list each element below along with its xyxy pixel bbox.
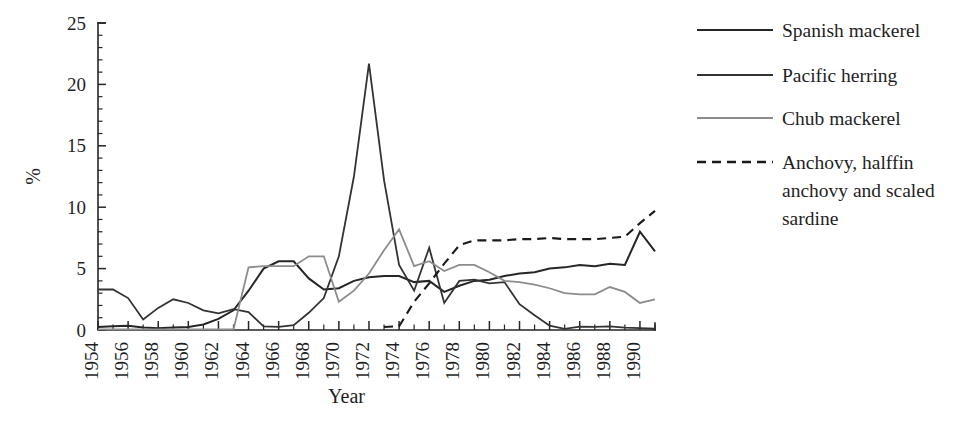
x-tick-label: 1980	[472, 342, 493, 380]
y-tick-label: 5	[77, 258, 87, 279]
legend-label-3: Chub mackerel	[782, 108, 901, 129]
x-tick-label: 1982	[503, 342, 524, 380]
legend-label-6: sardine	[782, 208, 838, 229]
x-tick-label: 1986	[563, 342, 584, 380]
line-chart-svg: 0510152025195419561958196019621964196619…	[0, 0, 961, 426]
x-tick-label: 1988	[593, 342, 614, 380]
x-tick-label: 1990	[623, 342, 644, 380]
chart-legend: Spanish mackerelPacific herringChub mack…	[697, 20, 935, 229]
y-tick-label: 0	[77, 320, 87, 341]
x-tick-label: 1984	[533, 342, 554, 381]
x-tick-label: 1956	[111, 342, 132, 380]
x-tick-label: 1960	[171, 342, 192, 380]
y-tick-label: 15	[67, 135, 86, 156]
legend-label-4: Anchovy, halffin	[782, 152, 914, 173]
x-tick-label: 1954	[81, 342, 102, 381]
x-tick-label: 1976	[412, 342, 433, 380]
y-tick-label: 20	[67, 74, 86, 95]
axes-group	[98, 23, 655, 330]
x-axis-title: Year	[328, 385, 365, 407]
legend-label-1: Spanish mackerel	[782, 20, 921, 41]
y-tick-label: 10	[67, 197, 86, 218]
series-line-1	[98, 232, 655, 328]
x-tick-label: 1974	[382, 342, 403, 381]
axis-spines	[98, 23, 655, 330]
series-line-2	[98, 64, 655, 329]
x-tick-label: 1966	[262, 342, 283, 380]
x-tick-label: 1972	[352, 342, 373, 380]
x-tick-label: 1970	[322, 342, 343, 380]
x-tick-label: 1964	[232, 342, 253, 381]
x-tick-label: 1958	[141, 342, 162, 380]
series-line-4	[384, 211, 655, 327]
series-group	[98, 64, 655, 330]
y-tick-label: 25	[67, 13, 86, 34]
legend-label-5: anchovy and scaled	[782, 180, 935, 201]
x-tick-label: 1962	[201, 342, 222, 380]
y-axis-title: %	[22, 168, 44, 185]
chart-figure: 0510152025195419561958196019621964196619…	[0, 0, 961, 426]
legend-label-2: Pacific herring	[782, 65, 898, 86]
x-tick-label: 1968	[292, 342, 313, 380]
tick-label-group: 0510152025195419561958196019621964196619…	[67, 13, 644, 381]
series-line-3	[98, 229, 655, 329]
x-tick-label: 1978	[442, 342, 463, 380]
